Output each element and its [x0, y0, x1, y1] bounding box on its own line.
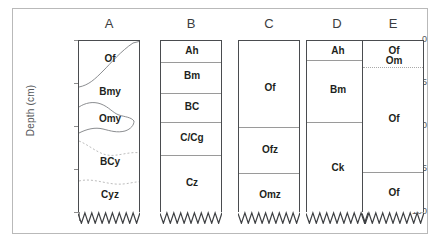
unconsolidated-bottom-boundary	[160, 210, 222, 224]
horizon-label: Bm	[307, 84, 368, 95]
zigzag-path	[362, 213, 424, 224]
horizon-boundary	[79, 141, 140, 155]
profile-column-a: AOfBmyOmyBCyCyz	[78, 40, 140, 212]
horizon-label: Bmy	[79, 86, 140, 97]
column-box: OfOfzOmz	[238, 40, 300, 212]
zigzag-path	[160, 213, 222, 224]
horizon-boundary-line	[363, 172, 424, 173]
column-header-c: C	[238, 16, 300, 31]
horizon-label: Cyz	[79, 189, 140, 200]
column-header-a: A	[78, 16, 140, 31]
horizon-label: Ah	[307, 45, 368, 56]
horizon-label: Of	[363, 113, 424, 124]
zigzag-path	[78, 213, 140, 224]
profile-column-d: DAhBmCk	[306, 40, 368, 212]
horizon-label: Of	[239, 82, 300, 93]
horizon-label: Bm	[161, 70, 222, 81]
horizon-label: Omz	[239, 189, 300, 200]
unconsolidated-bottom-boundary	[238, 210, 300, 224]
horizon-label: Ck	[307, 162, 368, 173]
column-box: AhBmBCC/CgCz	[160, 40, 222, 212]
horizon-label: BCy	[79, 156, 140, 167]
horizon-label: C/Cg	[161, 132, 222, 143]
horizon-boundary-line	[239, 127, 300, 128]
horizon-boundary-line	[161, 93, 222, 94]
horizon-boundary-line	[161, 122, 222, 123]
horizon-label: Ofz	[239, 144, 300, 155]
wavy-horizon-boundaries	[79, 41, 140, 212]
horizon-boundary-line	[239, 173, 300, 174]
column-box: OfOmOfOf	[362, 40, 424, 212]
figure-frame: 0255075100 Depth (cm) AOfBmyOmyBCyCyzBAh…	[12, 8, 428, 234]
zigzag-path	[238, 213, 300, 224]
horizon-boundary-line	[363, 67, 424, 68]
horizon-label: Om	[363, 55, 424, 66]
column-box: OfBmyOmyBCyCyz	[78, 40, 140, 212]
horizon-label: BC	[161, 101, 222, 112]
profile-column-b: BAhBmBCC/CgCz	[160, 40, 222, 212]
horizon-label: Of	[79, 53, 140, 64]
unconsolidated-bottom-boundary	[78, 210, 140, 224]
horizon-label: Cz	[161, 177, 222, 188]
column-header-b: B	[160, 16, 222, 31]
horizon-label: Of	[363, 187, 424, 198]
horizon-label: Ah	[161, 45, 222, 56]
soil-profile-figure: 0255075100 Depth (cm) AOfBmyOmyBCyCyzBAh…	[0, 0, 440, 244]
profile-column-c: COfOfzOmz	[238, 40, 300, 212]
horizon-boundary-line	[307, 122, 368, 123]
horizon-label: Omy	[79, 113, 140, 124]
column-header-d: D	[306, 16, 368, 31]
horizon-boundary-line	[161, 155, 222, 156]
unconsolidated-bottom-boundary	[306, 210, 368, 224]
horizon-boundary-line	[307, 60, 368, 61]
profile-column-e: EOfOmOfOf	[362, 40, 424, 212]
horizon-boundary-line	[161, 62, 222, 63]
horizon-boundary	[79, 180, 140, 184]
axis-title: Depth (cm)	[25, 61, 36, 161]
column-header-e: E	[362, 16, 424, 31]
column-box: AhBmCk	[306, 40, 368, 212]
zigzag-path	[306, 213, 368, 224]
unconsolidated-bottom-boundary	[362, 210, 424, 224]
